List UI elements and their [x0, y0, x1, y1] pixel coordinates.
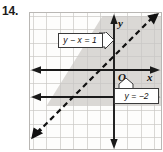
callout-horizontal-line: y = −2 — [114, 88, 159, 104]
origin-label: O — [118, 71, 126, 83]
callout-boundary-line: y − x = 1 — [58, 33, 103, 48]
problem-number: 14. — [2, 5, 18, 17]
y-axis-label: y — [116, 17, 123, 29]
x-axis-label: x — [146, 71, 153, 83]
